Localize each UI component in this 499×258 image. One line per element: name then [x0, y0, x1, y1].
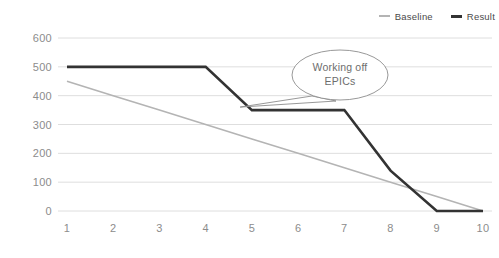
annotation-line-2: EPICs: [295, 74, 385, 88]
burndown-chart: Baseline Result 0100200300400500600 1234…: [0, 0, 499, 258]
annotation-callout-label: Working off EPICs: [295, 60, 385, 88]
x-tick-label: 5: [237, 222, 267, 234]
x-tick-label: 3: [144, 222, 174, 234]
x-tick-label: 2: [98, 222, 128, 234]
x-tick-label: 4: [191, 222, 221, 234]
x-tick-label: 10: [468, 222, 498, 234]
x-tick-label: 6: [283, 222, 313, 234]
x-tick-label: 9: [422, 222, 452, 234]
x-tick-label: 1: [52, 222, 82, 234]
annotation-line-1: Working off: [295, 60, 385, 74]
x-tick-label: 8: [376, 222, 406, 234]
x-tick-label: 7: [329, 222, 359, 234]
x-axis-ticks: 12345678910: [0, 0, 499, 258]
